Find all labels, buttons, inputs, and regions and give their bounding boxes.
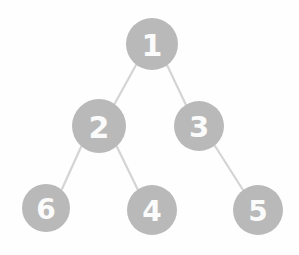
tree-node-5[interactable]: 5 xyxy=(233,185,283,235)
tree-node-label-1: 1 xyxy=(142,28,163,63)
tree-canvas: 123645 xyxy=(0,0,299,255)
tree-node-label-2: 2 xyxy=(89,110,110,145)
tree-node-1[interactable]: 1 xyxy=(126,18,178,70)
tree-node-4[interactable]: 4 xyxy=(127,185,177,235)
tree-edge-1-2 xyxy=(114,65,136,105)
tree-node-label-4: 4 xyxy=(142,195,161,228)
nodes-group: 123645 xyxy=(22,18,283,235)
tree-node-3[interactable]: 3 xyxy=(174,101,224,151)
tree-node-label-5: 5 xyxy=(248,195,267,228)
tree-edge-2-4 xyxy=(117,147,138,190)
tree-edge-1-3 xyxy=(167,65,186,105)
tree-edge-2-6 xyxy=(62,147,81,189)
tree-node-2[interactable]: 2 xyxy=(72,99,126,153)
tree-node-label-6: 6 xyxy=(36,193,55,226)
tree-edge-3-5 xyxy=(215,146,243,190)
tree-node-6[interactable]: 6 xyxy=(22,184,70,232)
binary-tree-diagram: 123645 xyxy=(0,0,299,255)
tree-node-label-3: 3 xyxy=(189,110,209,144)
